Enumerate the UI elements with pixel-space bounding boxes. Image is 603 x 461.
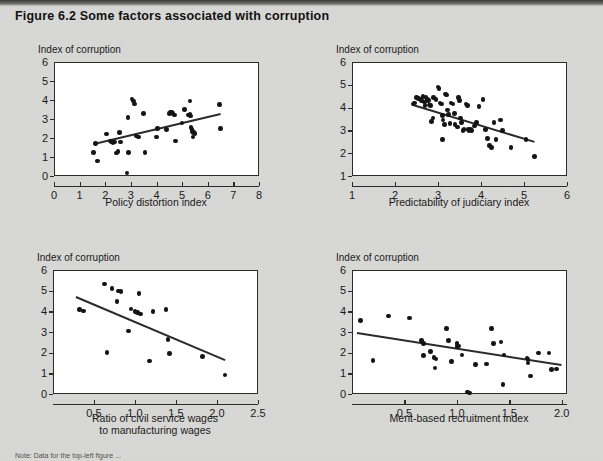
data-point bbox=[455, 125, 460, 130]
y-axis-label-civil-service-wages: Index of corruption bbox=[37, 252, 120, 263]
y-tick-mark bbox=[49, 311, 53, 312]
x-axis-label-judiciary-predictability: Predictability of judiciary index bbox=[349, 196, 569, 208]
x-tick-mark bbox=[438, 182, 439, 186]
data-point bbox=[477, 104, 482, 109]
x-tick-mark bbox=[258, 400, 259, 404]
data-point bbox=[459, 120, 464, 125]
data-point bbox=[442, 122, 447, 127]
data-point bbox=[386, 314, 391, 319]
data-point bbox=[200, 354, 205, 359]
y-tick-mark bbox=[348, 108, 352, 109]
y-tick-label: 1 bbox=[31, 368, 47, 379]
figure-note: Note: Data for the top-left figure ... bbox=[15, 452, 121, 459]
y-tick-label: 1 bbox=[330, 171, 346, 182]
x-tick-mark bbox=[457, 400, 458, 404]
data-point bbox=[126, 150, 131, 155]
y-tick-label: 5 bbox=[330, 285, 346, 296]
y-tick-label: 2 bbox=[330, 148, 346, 159]
y-tick-label: 0 bbox=[31, 389, 47, 400]
data-point bbox=[532, 154, 537, 159]
y-tick-label: 4 bbox=[31, 306, 47, 317]
plot-area-policy-distortion bbox=[54, 62, 259, 176]
y-tick-mark bbox=[348, 291, 352, 292]
data-point bbox=[444, 326, 449, 331]
data-point bbox=[449, 359, 454, 364]
data-point bbox=[437, 86, 442, 91]
y-axis-label-policy-distortion: Index of corruption bbox=[38, 44, 121, 55]
x-tick-mark bbox=[524, 182, 525, 186]
y-tick-label: 3 bbox=[32, 114, 48, 125]
data-point bbox=[428, 349, 433, 354]
x-tick-mark bbox=[233, 182, 234, 186]
data-point bbox=[484, 362, 489, 367]
x-axis-label-line1: Policy distortion index bbox=[46, 196, 266, 208]
x-tick-mark bbox=[135, 400, 136, 404]
x-tick-mark bbox=[80, 182, 81, 186]
data-point bbox=[446, 338, 451, 343]
y-tick-label: 2 bbox=[32, 133, 48, 144]
data-point bbox=[164, 127, 169, 132]
y-tick-mark bbox=[50, 157, 54, 158]
y-tick-label: 5 bbox=[32, 76, 48, 87]
x-axis-line-civil-service-wages bbox=[53, 404, 258, 405]
data-point bbox=[440, 137, 445, 142]
y-tick-mark bbox=[50, 100, 54, 101]
x-tick-mark bbox=[352, 182, 353, 186]
y-axis-label-judiciary-predictability: Index of corruption bbox=[336, 44, 419, 55]
y-tick-mark bbox=[50, 138, 54, 139]
data-point bbox=[138, 312, 143, 317]
data-point bbox=[173, 139, 178, 144]
data-point bbox=[91, 150, 96, 155]
y-tick-label: 1 bbox=[330, 368, 346, 379]
data-point bbox=[141, 111, 146, 116]
y-tick-label: 6 bbox=[330, 57, 346, 68]
data-point bbox=[500, 128, 505, 133]
plot-area-merit-recruitment bbox=[352, 270, 567, 394]
x-tick-mark bbox=[217, 400, 218, 404]
data-point bbox=[483, 127, 488, 132]
data-point bbox=[465, 103, 470, 108]
x-tick-mark bbox=[131, 182, 132, 186]
data-point bbox=[93, 141, 98, 146]
data-point bbox=[81, 309, 86, 314]
x-tick-mark bbox=[182, 182, 183, 186]
data-point bbox=[217, 102, 222, 107]
x-axis-label-policy-distortion: Policy distortion index bbox=[46, 196, 266, 208]
x-axis-label-line2: to manufacturing wages bbox=[45, 424, 265, 436]
data-point bbox=[164, 307, 169, 312]
data-point bbox=[469, 128, 474, 133]
x-tick-mark bbox=[404, 400, 405, 404]
data-point bbox=[167, 351, 172, 356]
y-tick-label: 4 bbox=[330, 306, 346, 317]
data-point bbox=[132, 102, 137, 107]
x-tick-mark bbox=[208, 182, 209, 186]
data-point bbox=[446, 112, 451, 117]
data-point bbox=[188, 114, 193, 119]
y-tick-label: 6 bbox=[330, 265, 346, 276]
data-point bbox=[467, 391, 472, 396]
x-axis-line-judiciary-predictability bbox=[352, 186, 567, 187]
x-tick-mark bbox=[157, 182, 158, 186]
data-point bbox=[143, 150, 148, 155]
y-tick-label: 4 bbox=[32, 95, 48, 106]
y-tick-mark bbox=[348, 85, 352, 86]
x-tick-mark bbox=[395, 182, 396, 186]
y-tick-label: 3 bbox=[330, 327, 346, 338]
y-tick-label: 2 bbox=[31, 347, 47, 358]
data-point bbox=[421, 341, 426, 346]
data-point bbox=[428, 103, 433, 108]
data-point bbox=[112, 140, 117, 145]
data-point bbox=[473, 362, 478, 367]
data-point bbox=[491, 341, 496, 346]
x-axis-label-line1: Ratio of civil service wages bbox=[45, 412, 265, 424]
y-tick-mark bbox=[49, 291, 53, 292]
page-top-bar bbox=[0, 0, 603, 6]
plot-area-civil-service-wages bbox=[53, 270, 258, 394]
data-point bbox=[474, 120, 479, 125]
y-tick-mark bbox=[348, 176, 352, 177]
data-point bbox=[492, 120, 497, 125]
data-point bbox=[452, 111, 457, 116]
data-point bbox=[166, 337, 171, 342]
data-point bbox=[528, 374, 533, 379]
y-tick-mark bbox=[50, 119, 54, 120]
